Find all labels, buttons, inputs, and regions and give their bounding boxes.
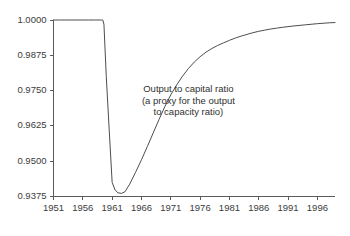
y-axis-tick-labels: 0.93750.95000.96250.97500.98751.0000 [17,14,46,202]
annotation-line: to capacity ratio) [154,106,224,117]
y-tick-label: 1.0000 [17,14,46,25]
series-annotation: Output to capital ratio(a proxy for the … [142,83,235,117]
y-axis-ticks [50,20,54,197]
x-tick-label: 1961 [102,202,123,213]
x-tick-label: 1956 [72,202,93,213]
x-axis-ticks [54,197,318,201]
x-tick-label: 1976 [190,202,211,213]
annotation-line: Output to capital ratio [143,83,233,94]
y-tick-label: 0.9875 [17,49,46,60]
x-tick-label: 1981 [219,202,240,213]
line-chart-plot: 0.93750.95000.96250.97500.98751.0000 195… [0,0,350,236]
y-tick-label: 0.9375 [17,190,46,201]
y-tick-label: 0.9625 [17,119,46,130]
x-tick-label: 1996 [307,202,328,213]
annotation-line: (a proxy for the output [142,95,235,106]
y-tick-label: 0.9750 [17,84,46,95]
x-tick-label: 1966 [131,202,152,213]
y-tick-label: 0.9500 [17,155,46,166]
x-tick-label: 1991 [278,202,299,213]
chart-figure: 0.93750.95000.96250.97500.98751.0000 195… [0,0,350,236]
x-tick-label: 1986 [248,202,269,213]
x-tick-label: 1951 [43,202,64,213]
x-tick-label: 1971 [160,202,181,213]
chart-annotations: Output to capital ratio(a proxy for the … [142,83,235,117]
x-axis-tick-labels: 1951195619611966197119761981198619911996 [43,202,328,213]
